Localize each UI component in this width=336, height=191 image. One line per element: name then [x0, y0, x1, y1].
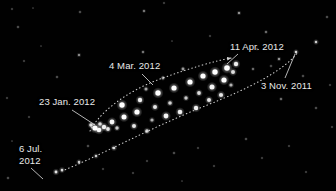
planet-marker: [115, 126, 118, 129]
planet-marker: [164, 114, 169, 119]
background-star: [56, 76, 58, 78]
sky-chart-figure: 11 Apr. 2012 4 Mar. 2012 3 Nov. 2011 23 …: [0, 0, 336, 191]
leader-jan: [72, 110, 95, 125]
planet-marker: [145, 129, 149, 133]
planet-marker: [234, 62, 238, 66]
background-star: [213, 165, 214, 166]
date-label-3-nov-2011: 3 Nov. 2011: [261, 81, 312, 92]
background-star: [209, 35, 210, 36]
planet-marker: [207, 98, 211, 102]
background-star: [181, 180, 182, 181]
planet-marker: [182, 68, 185, 71]
background-star: [28, 116, 29, 117]
planet-marker: [194, 106, 198, 110]
planet-marker: [134, 109, 139, 114]
background-star: [11, 8, 12, 9]
date-label-6-jul-2012-line2: 2012: [19, 155, 42, 167]
background-star: [278, 58, 280, 60]
background-star: [143, 10, 145, 12]
background-star: [326, 16, 328, 18]
planet-marker: [122, 115, 127, 120]
planet-marker: [221, 77, 226, 82]
background-star: [7, 177, 9, 179]
background-star: [315, 107, 317, 109]
background-star: [17, 26, 19, 28]
planet-marker: [89, 123, 93, 127]
planet-marker: [200, 73, 205, 78]
background-star: [280, 98, 282, 100]
background-star: [302, 75, 304, 77]
background-star: [238, 12, 240, 14]
background-star: [315, 41, 317, 43]
leader-nov: [285, 54, 295, 78]
planet-marker: [132, 124, 136, 128]
background-star: [78, 161, 80, 163]
background-star: [197, 147, 198, 148]
planet-marker: [138, 98, 142, 102]
background-star: [270, 65, 272, 67]
date-label-4-mar-2012: 4 Mar. 2012: [109, 61, 160, 72]
planet-marker: [219, 93, 223, 97]
planet-marker: [119, 102, 124, 107]
planet-marker: [171, 85, 176, 90]
planet-marker: [145, 88, 148, 91]
background-star: [163, 2, 164, 3]
background-star: [87, 145, 89, 147]
planet-marker: [231, 70, 235, 74]
date-label-6-jul-2012: 6 Jul. 2012: [19, 143, 42, 166]
planet-marker: [229, 83, 232, 86]
date-label-11-apr-2012: 11 Apr. 2012: [230, 42, 284, 53]
date-label-6-jul-2012-line1: 6 Jul.: [19, 143, 42, 155]
planet-marker: [224, 65, 230, 71]
planet-marker: [155, 90, 160, 95]
background-star: [132, 172, 133, 173]
planet-marker: [162, 77, 165, 80]
planet-marker: [184, 96, 187, 99]
background-star: [78, 54, 80, 56]
background-star: [142, 51, 144, 53]
background-star: [305, 171, 306, 172]
background-star: [55, 171, 58, 174]
background-star: [331, 126, 332, 127]
background-star: [79, 11, 81, 13]
planet-marker: [197, 91, 201, 95]
planet-marker: [106, 127, 110, 131]
background-star: [173, 152, 175, 154]
planet-marker: [110, 120, 115, 125]
planet-marker: [168, 101, 172, 105]
background-star: [6, 97, 7, 98]
date-label-23-jan-2012: 23 Jan. 2012: [39, 97, 95, 108]
background-star: [102, 168, 103, 169]
leader-mar: [142, 74, 153, 85]
leader-jul: [31, 168, 43, 179]
background-stars: [5, 1, 334, 182]
background-star: [288, 145, 289, 146]
planet-marker: [98, 122, 102, 126]
background-star: [32, 7, 33, 8]
background-star: [23, 60, 24, 61]
background-star: [40, 45, 41, 46]
background-star: [265, 31, 267, 33]
planet-marker: [187, 79, 192, 84]
background-star: [295, 51, 297, 53]
background-star: [329, 84, 330, 85]
background-star: [252, 68, 254, 70]
background-star: [146, 160, 147, 161]
planet-marker: [210, 85, 215, 90]
background-star: [245, 138, 247, 140]
background-star: [171, 40, 172, 41]
planet-marker: [212, 69, 217, 74]
planet-marker: [153, 105, 157, 109]
background-star: [261, 157, 262, 158]
background-star: [11, 140, 12, 141]
planet-marker: [178, 110, 183, 115]
planet-marker: [150, 118, 153, 121]
